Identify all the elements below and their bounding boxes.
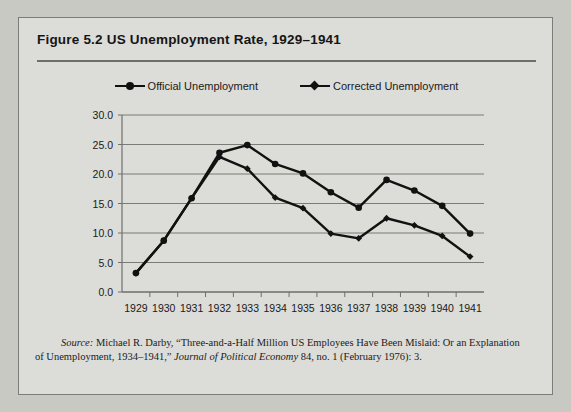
data-point-marker (439, 233, 446, 240)
legend-label-corrected: Corrected Unemployment (333, 80, 458, 92)
data-point-marker (383, 177, 390, 184)
source-line2-pre: of Unemployment, 1934–1941,” (35, 351, 174, 362)
data-point-marker (300, 205, 307, 212)
y-axis-tick-labels: 0.05.010.015.020.025.030.0 (93, 109, 114, 298)
x-axis-tick-label: 1941 (458, 302, 482, 314)
data-point-marker (188, 195, 195, 202)
source-line1: Michael R. Darby, “Three-and-a-Half Mill… (93, 337, 520, 348)
data-point-marker (411, 187, 418, 194)
chart-series-corrected (133, 153, 474, 276)
x-axis-tick-label: 1938 (375, 302, 399, 314)
source-line2-post: 84, no. 1 (February 1976): 3. (298, 351, 422, 362)
y-axis-tick-label: 0.0 (98, 286, 113, 298)
source-journal: Journal of Political Economy (174, 351, 298, 362)
data-point-marker (216, 149, 223, 156)
chart-axes (122, 115, 484, 292)
x-axis-tick-label: 1932 (208, 302, 232, 314)
data-point-marker (300, 170, 307, 177)
y-axis-tick-label: 15.0 (93, 198, 114, 210)
y-axis-tick-label: 20.0 (93, 168, 114, 180)
x-axis-tick-label: 1940 (431, 302, 455, 314)
source-note: Source: Michael R. Darby, “Three-and-a-H… (35, 336, 538, 364)
legend-label-official: Official Unemployment (148, 80, 258, 92)
x-axis-tick-labels: 1929193019311932193319341935193619371938… (124, 302, 482, 314)
title-divider (37, 60, 536, 62)
data-point-marker (467, 230, 474, 237)
data-point-marker (383, 215, 390, 222)
chart-series-layer (133, 142, 474, 277)
y-axis-tick-label: 5.0 (98, 257, 113, 269)
data-point-marker (355, 204, 362, 211)
x-axis-tick-label: 1931 (180, 302, 204, 314)
y-axis-tick-label: 25.0 (93, 139, 114, 151)
legend-item-corrected: Corrected Unemployment (300, 80, 458, 92)
data-point-marker (439, 203, 446, 210)
data-point-marker (133, 270, 140, 277)
y-axis-tick-label: 10.0 (93, 227, 114, 239)
x-axis-tick-label: 1930 (152, 302, 176, 314)
data-point-marker (328, 189, 335, 196)
data-point-marker (216, 153, 223, 160)
data-point-marker (272, 194, 279, 201)
figure-card: Figure 5.2 US Unemployment Rate, 1929–19… (18, 17, 553, 395)
data-point-marker (244, 142, 251, 149)
y-axis-tick-label: 30.0 (93, 109, 114, 121)
circle-marker-icon (115, 81, 145, 91)
x-axis-tick-label: 1933 (236, 302, 260, 314)
series-line (136, 145, 470, 273)
x-axis-tick-label: 1934 (263, 302, 287, 314)
page-title: Figure 5.2 US Unemployment Rate, 1929–19… (37, 32, 341, 47)
data-point-marker (160, 237, 167, 244)
data-point-marker (188, 195, 195, 202)
data-point-marker (160, 237, 167, 244)
data-point-marker (133, 270, 140, 277)
diamond-marker-icon (300, 81, 330, 91)
legend-item-official: Official Unemployment (115, 80, 258, 92)
chart-legend: Official Unemployment Corrected Unemploy… (19, 80, 554, 92)
x-axis-tick-label: 1939 (403, 302, 427, 314)
x-axis-tick-label: 1937 (347, 302, 371, 314)
data-point-marker (411, 222, 418, 229)
x-axis-tick-label: 1936 (319, 302, 343, 314)
data-point-marker (244, 165, 251, 172)
data-point-marker (272, 161, 279, 168)
data-point-marker (467, 253, 474, 260)
data-point-marker (355, 235, 362, 242)
x-axis-ticks (150, 292, 456, 297)
chart-gridlines (118, 115, 484, 292)
series-line (136, 157, 470, 273)
source-label: Source: (61, 337, 93, 348)
x-axis-tick-label: 1935 (291, 302, 315, 314)
data-point-marker (327, 230, 334, 237)
chart-series-official (133, 142, 474, 277)
x-axis-tick-label: 1929 (124, 302, 148, 314)
